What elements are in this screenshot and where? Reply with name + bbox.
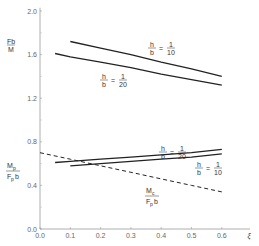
label-upper-1-20-eq: = xyxy=(111,77,115,84)
ylabel-fpb-b: b xyxy=(15,173,19,180)
chart: 0.00.40.81.21.62.00.00.10.20.30.40.50.6ξ… xyxy=(0,0,259,246)
x-tick-label: 0.1 xyxy=(65,232,75,239)
label-lower-1-20-val-den: 20 xyxy=(178,153,186,160)
series-line-4 xyxy=(40,153,222,192)
label-upper-1-10-hb-den: b xyxy=(150,49,154,56)
x-tick-label: 0.3 xyxy=(126,232,136,239)
y-tick-label: 1.6 xyxy=(27,51,37,58)
x-tick-label: 0.0 xyxy=(35,232,45,239)
x-tick-label: 0.6 xyxy=(217,232,227,239)
label-lower-1-10-hb-den: b xyxy=(197,169,201,176)
label-lower-1-10-hb-num: h xyxy=(197,161,201,168)
label-lower-1-10-val-num: 1 xyxy=(216,161,220,168)
label-upper-1-10-eq: = xyxy=(159,45,163,52)
label-upper-1-20-val-den: 20 xyxy=(119,81,127,88)
label-mc-fsub: p xyxy=(150,201,153,207)
ylabel-mp-sub: p xyxy=(13,165,16,171)
y-tick-label: 0.4 xyxy=(27,182,37,189)
ylabel-fb-m-den: M xyxy=(8,46,14,53)
label-lower-1-20-val-num: 1 xyxy=(180,145,184,152)
label-upper-1-10-val-num: 1 xyxy=(169,41,173,48)
x-tick-label: 0.2 xyxy=(96,232,106,239)
label-lower-1-10-val-den: 10 xyxy=(214,169,222,176)
label-lower-1-10-eq: = xyxy=(206,165,210,172)
label-lower-1-20-hb-num: h xyxy=(161,145,165,152)
label-upper-1-10-val-den: 10 xyxy=(167,49,175,56)
label-mc-sub: c xyxy=(152,190,155,196)
ylabel-fb-m-num: Fb xyxy=(7,38,15,45)
series-line-1 xyxy=(55,54,222,86)
ylabel-fpb-sub: p xyxy=(11,176,14,182)
label-lower-1-20-hb-den: b xyxy=(161,153,165,160)
label-mc-b: b xyxy=(154,198,158,205)
label-lower-1-20-eq: = xyxy=(170,149,174,156)
x-tick-label: 0.5 xyxy=(187,232,197,239)
y-tick-label: 0.8 xyxy=(27,138,37,145)
label-upper-1-20-val-num: 1 xyxy=(121,73,125,80)
label-upper-1-10-hb-num: h xyxy=(150,41,154,48)
y-tick-label: 2.0 xyxy=(27,8,37,15)
y-tick-label: 1.2 xyxy=(27,95,37,102)
label-upper-1-20-hb-num: h xyxy=(102,73,106,80)
label-upper-1-20-hb-den: b xyxy=(102,81,106,88)
x-axis-label: ξ xyxy=(247,232,251,240)
x-tick-label: 0.4 xyxy=(156,232,166,239)
